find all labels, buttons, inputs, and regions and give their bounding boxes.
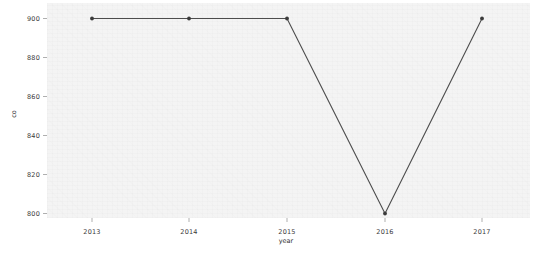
y-tick-label-860: 860 [14, 93, 40, 101]
x-tick-label-2013: 2013 [72, 228, 112, 236]
line-chart-figure: 900 880 860 840 820 800 2013 2014 2015 2… [0, 0, 552, 258]
x-tick-label-2014: 2014 [169, 228, 209, 236]
y-tick-label-880: 880 [14, 54, 40, 62]
x-axis-tick-marks [92, 218, 482, 222]
x-tick-label-2015: 2015 [267, 228, 307, 236]
y-tick-label-820: 820 [14, 171, 40, 179]
x-tick-label-2017: 2017 [462, 228, 502, 236]
x-tick-label-2016: 2016 [365, 228, 405, 236]
y-tick-label-840: 840 [14, 132, 40, 140]
y-axis-title: co [10, 104, 18, 124]
x-axis-title: year [266, 237, 306, 245]
y-tick-label-900: 900 [14, 15, 40, 23]
y-tick-label-800: 800 [14, 210, 40, 218]
plot-panel [47, 3, 530, 218]
